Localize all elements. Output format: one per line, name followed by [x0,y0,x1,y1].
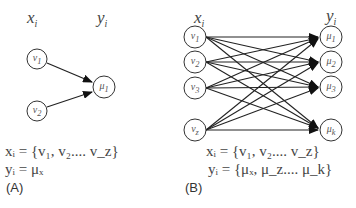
node-v2: v2 [27,104,47,118]
panel-b-eq-x: xᵢ = {v₁, v₂.... v_z} [206,143,320,160]
node-b-mu1: μ1 [320,30,342,44]
node-mu1: μ1 [93,80,115,94]
node-b-muk: μk [320,123,342,137]
node-b-v2: v2 [184,55,206,69]
panel-a-eq-x: xᵢ = {v₁, v₂.... v_z} [5,143,119,160]
node-b-mu2: μ2 [320,55,342,69]
panel-a-input-label: xi [27,8,37,29]
panel-a-output-label: yi [97,8,107,29]
node-b-v3: v3 [184,81,206,95]
node-v1: v1 [27,52,47,66]
panel-b-input-label: xi [194,8,204,29]
panel-b-label: (B) [185,180,202,195]
panel-b-output-label: yi [326,6,336,27]
node-b-v1: v1 [184,30,206,44]
panel-b-edges [206,37,318,130]
panel-a-label: (A) [6,180,23,195]
node-b-mu3: μ3 [320,80,342,94]
panel-a-eq-y: yᵢ = μₓ [5,161,43,178]
node-b-vz: vz [184,123,206,137]
panel-a-edges [47,63,92,107]
panel-b-eq-y: yᵢ = {μₓ, μ_z.... μ_k} [208,161,332,178]
